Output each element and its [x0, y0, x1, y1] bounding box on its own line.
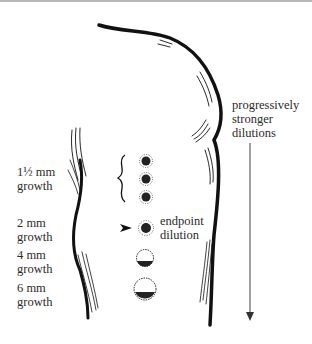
wheal-1-5mm-a: [140, 155, 153, 168]
wheal-6mm: [134, 278, 156, 300]
wheal-1-5mm-b: [140, 173, 153, 186]
arm-left-contour: [68, 128, 98, 318]
wheal-1-5mm-c: [140, 191, 153, 204]
label-4mm-growth: 4 mm growth: [17, 248, 52, 276]
endpoint-arrow-icon: [120, 224, 132, 232]
label-2mm-growth: 2 mm growth: [17, 216, 52, 244]
direction-arrowhead-icon: [246, 312, 254, 321]
wheal-2mm-endpoint: [139, 221, 154, 236]
label-6mm-growth: 6 mm growth: [17, 281, 52, 309]
label-1-5mm-growth: 1½ mm growth: [17, 165, 55, 193]
label-endpoint-dilution: endpoint dilution: [160, 214, 204, 242]
label-progressively-stronger-dilutions: progressively stronger dilutions: [232, 98, 299, 140]
brace-1-5mm-group: [118, 155, 125, 202]
arm-right-contour: [99, 25, 221, 325]
wheal-4mm: [137, 250, 154, 267]
